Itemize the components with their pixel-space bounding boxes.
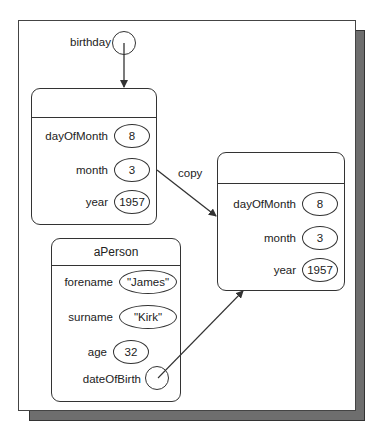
reference-arrows [0, 0, 381, 435]
copy-arrow [157, 170, 216, 216]
dateOfBirth-arrow [158, 291, 243, 378]
